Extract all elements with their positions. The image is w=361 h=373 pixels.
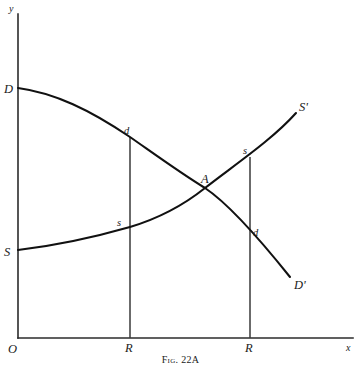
demand-end-label: D' — [293, 278, 306, 292]
left-demand-point-label: d — [124, 125, 130, 136]
figure-container: y x O D D' S S' A d s s d R R Fig. 22A — [0, 0, 361, 373]
supply-start-label: S — [4, 245, 11, 259]
supply-end-label: S' — [299, 100, 308, 114]
equilibrium-label-a: A — [200, 172, 209, 186]
right-supply-point-label: s — [243, 145, 247, 156]
demand-curve — [18, 88, 290, 277]
figure-caption: Fig. 22A — [0, 354, 361, 365]
right-demand-point-label: d — [253, 227, 259, 238]
y-axis-label: y — [8, 3, 14, 14]
x-axis-label: x — [345, 342, 351, 353]
left-r-label: R — [124, 341, 133, 355]
demand-start-label: D — [3, 82, 13, 96]
right-r-label: R — [244, 341, 253, 355]
supply-demand-chart: y x O D D' S S' A d s s d R R — [0, 0, 361, 373]
left-supply-point-label: s — [117, 217, 121, 228]
